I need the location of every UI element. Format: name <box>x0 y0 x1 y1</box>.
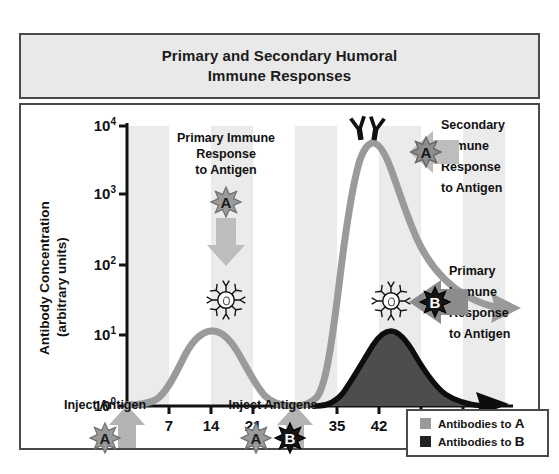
annotation-primary-a-line-1: Primary Immune <box>177 131 275 145</box>
legend-swatch-a <box>420 418 431 429</box>
inject-second-antigen-b-label: B <box>285 430 296 447</box>
legend-swatch-b <box>420 436 431 447</box>
annotation-primary-a-line-3: to Antigen <box>195 163 256 177</box>
y-axis-title-line-2: (arbitrary units) <box>54 237 69 337</box>
legend-label-a-key: A <box>515 416 525 431</box>
y-tick-2-base: 10 <box>94 256 111 273</box>
antigen-b-burst-icon: B <box>420 287 450 317</box>
y-tick-4-base: 10 <box>94 117 111 134</box>
title-line-2: Immune Responses <box>208 67 351 84</box>
inject-second-label: Inject Antigens <box>228 398 317 412</box>
legend-label-a: Antibodies to A <box>438 416 524 431</box>
svg-text:103: 103 <box>94 184 117 202</box>
y-tick-1-exp: 1 <box>110 325 116 336</box>
y-tick-3-exp: 3 <box>110 184 116 195</box>
inject-first-label: Inject Antigen <box>64 398 146 412</box>
y-axis-title-line-1: Antibody Concentration <box>37 201 52 355</box>
y-tick-2-exp: 2 <box>110 255 116 266</box>
annotation-primary-b-line-1: Primary <box>449 264 496 278</box>
antigen-b-burst-label: B <box>430 294 441 311</box>
antigen-a-burst-icon-secondary: A <box>411 137 441 167</box>
antigen-a-burst-label: A <box>221 194 232 211</box>
legend: Antibodies to A Antibodies to B <box>406 409 549 457</box>
inject-second-antigen-a-label: A <box>251 430 262 447</box>
y-tick-3-base: 10 <box>94 185 111 202</box>
title-line-1: Primary and Secondary Humoral <box>162 47 397 64</box>
y-tick-4-exp: 4 <box>110 116 116 127</box>
legend-item-antibodies-to-b: Antibodies to B <box>420 434 547 449</box>
inject-first-antigen-a-label: A <box>100 430 111 447</box>
antigen-a-burst-icon: A <box>211 187 241 217</box>
inject-second-antigen-b-icon: B <box>275 423 305 453</box>
figure-title-box: Primary and Secondary Humoral Immune Res… <box>19 33 540 99</box>
svg-text:102: 102 <box>94 255 117 273</box>
legend-item-antibodies-to-a: Antibodies to A <box>420 416 547 431</box>
legend-label-b-prefix: Antibodies to <box>438 436 515 448</box>
inject-first-antigen-a-icon: A <box>90 423 120 453</box>
legend-label-b: Antibodies to B <box>438 434 524 449</box>
injection-captions: Inject Antigen A Inject Antigens A B <box>19 390 419 470</box>
svg-text:101: 101 <box>94 325 117 343</box>
antigen-a-burst-label-secondary: A <box>421 144 432 161</box>
y-tick-1-base: 10 <box>94 326 111 343</box>
inject-first-group: Inject Antigen A <box>64 398 146 453</box>
annotation-secondary-a-line-1: Secondary <box>441 118 505 132</box>
figure-root: Primary and Secondary Humoral Immune Res… <box>0 0 559 474</box>
annotation-primary-a: Primary Immune Response to Antigen A <box>177 131 275 319</box>
y-axis-title: Antibody Concentration (arbitrary units) <box>37 201 69 355</box>
annotation-primary-a-line-2: Response <box>196 147 256 161</box>
annotation-primary-b-line-4: to Antigen <box>449 327 510 341</box>
annotation-secondary-a-line-4: to Antigen <box>441 181 502 195</box>
svg-text:104: 104 <box>94 116 117 134</box>
legend-label-b-key: B <box>515 434 525 449</box>
legend-label-a-prefix: Antibodies to <box>438 418 515 430</box>
y-axis-tick-labels: 100 101 102 103 104 <box>94 116 117 414</box>
page-title: Primary and Secondary Humoral Immune Res… <box>162 46 397 87</box>
inject-second-group: Inject Antigens A B <box>228 398 317 453</box>
inject-second-antigen-a-icon: A <box>241 423 271 453</box>
